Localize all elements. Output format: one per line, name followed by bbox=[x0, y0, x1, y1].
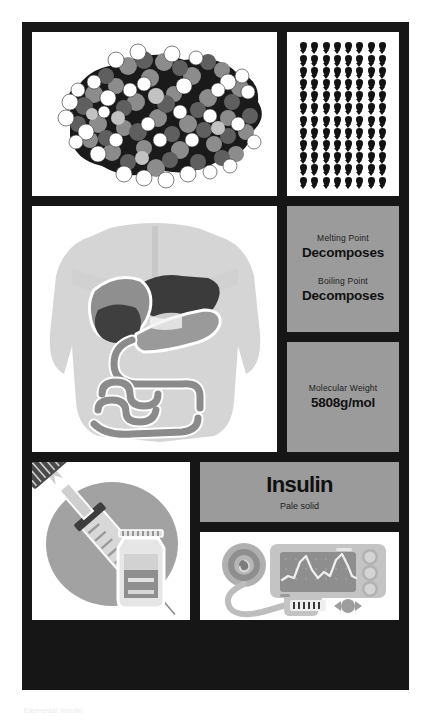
monitor-panel bbox=[200, 532, 399, 620]
human-torso-digestive-organs-icon bbox=[32, 206, 277, 452]
droplet-icon bbox=[356, 164, 363, 173]
droplet-icon bbox=[368, 140, 375, 149]
anatomy-panel bbox=[32, 206, 277, 452]
droplet-icon bbox=[323, 152, 330, 161]
droplet-icon bbox=[356, 140, 363, 149]
molecule-panel bbox=[32, 32, 277, 196]
droplet-icon bbox=[323, 164, 330, 173]
droplet-icon bbox=[345, 140, 352, 149]
droplet-icon bbox=[345, 67, 352, 76]
droplet-icon bbox=[379, 152, 386, 161]
droplet-icon bbox=[311, 116, 318, 125]
droplet-icon bbox=[323, 103, 330, 112]
droplet-icon bbox=[323, 55, 330, 64]
droplet-icon bbox=[379, 55, 386, 64]
droplet-icon bbox=[345, 103, 352, 112]
droplet-icon bbox=[345, 116, 352, 125]
droplet-icon bbox=[311, 128, 318, 137]
droplet-icon bbox=[379, 67, 386, 76]
molecular-weight-panel: Molecular Weight 5808g/mol bbox=[287, 342, 399, 452]
droplet-icon bbox=[311, 42, 318, 51]
droplet-icon bbox=[379, 128, 386, 137]
droplet-icon bbox=[345, 128, 352, 137]
droplet-icon bbox=[334, 55, 341, 64]
boiling-point-label: Boiling Point bbox=[302, 276, 384, 287]
compound-description: Pale solid bbox=[280, 502, 319, 511]
droplet-icon bbox=[334, 152, 341, 161]
compound-title-panel: Insulin Pale solid bbox=[200, 462, 399, 522]
droplet-icon bbox=[323, 79, 330, 88]
droplet-icon bbox=[368, 177, 375, 186]
droplet-icon bbox=[379, 140, 386, 149]
droplet-icon bbox=[300, 152, 307, 161]
droplet-icon bbox=[356, 103, 363, 112]
droplet-grid bbox=[298, 41, 388, 187]
droplet-icon bbox=[368, 103, 375, 112]
droplet-icon bbox=[379, 164, 386, 173]
melting-point-block: Melting Point Decomposes bbox=[302, 233, 384, 262]
droplet-icon bbox=[300, 55, 307, 64]
droplet-icon bbox=[300, 140, 307, 149]
droplet-icon bbox=[345, 55, 352, 64]
droplet-icon bbox=[368, 152, 375, 161]
droplet-icon bbox=[379, 79, 386, 88]
droplet-icon bbox=[345, 164, 352, 173]
poster-frame: Melting Point Decomposes Boiling Point D… bbox=[22, 22, 409, 690]
droplet-icon bbox=[379, 91, 386, 100]
droplet-icon bbox=[300, 177, 307, 186]
droplet-icon bbox=[356, 42, 363, 51]
droplet-icon bbox=[311, 79, 318, 88]
water-droplet-grid-icon bbox=[287, 32, 399, 196]
droplet-icon bbox=[300, 79, 307, 88]
droplet-icon bbox=[368, 55, 375, 64]
melting-point-value: Decomposes bbox=[302, 245, 384, 262]
droplet-icon bbox=[300, 42, 307, 51]
boiling-point-value: Decomposes bbox=[302, 288, 384, 305]
droplet-icon bbox=[334, 177, 341, 186]
syringe-panel bbox=[32, 462, 190, 620]
melting-point-label: Melting Point bbox=[302, 233, 384, 244]
molecular-weight-label: Molecular Weight bbox=[309, 383, 378, 394]
droplet-icon bbox=[300, 91, 307, 100]
droplet-icon bbox=[356, 177, 363, 186]
droplet-icon bbox=[300, 128, 307, 137]
droplet-icon bbox=[300, 67, 307, 76]
droplet-icon bbox=[311, 91, 318, 100]
droplet-icon bbox=[345, 152, 352, 161]
droplet-icon bbox=[356, 128, 363, 137]
droplet-icon bbox=[311, 103, 318, 112]
device-buttons bbox=[362, 549, 378, 597]
droplet-icon bbox=[368, 164, 375, 173]
droplet-icon bbox=[345, 177, 352, 186]
droplet-icon bbox=[379, 103, 386, 112]
syringe-and-vial-icon bbox=[32, 462, 190, 620]
droplet-icon bbox=[368, 116, 375, 125]
droplet-icon bbox=[311, 152, 318, 161]
sensor-electrode bbox=[222, 543, 266, 587]
droplet-icon bbox=[379, 116, 386, 125]
droplet-icon bbox=[300, 164, 307, 173]
droplet-icon bbox=[311, 55, 318, 64]
droplet-icon bbox=[334, 116, 341, 125]
droplet-icon bbox=[368, 79, 375, 88]
droplet-icon bbox=[356, 152, 363, 161]
droplet-icon bbox=[300, 116, 307, 125]
droplets-panel bbox=[287, 32, 399, 196]
droplet-icon bbox=[368, 91, 375, 100]
droplet-icon bbox=[323, 42, 330, 51]
droplet-icon bbox=[311, 67, 318, 76]
poster-caption: Elemental Insulin bbox=[24, 707, 82, 714]
droplet-icon bbox=[356, 91, 363, 100]
droplet-icon bbox=[311, 177, 318, 186]
droplet-icon bbox=[356, 55, 363, 64]
droplet-icon bbox=[334, 140, 341, 149]
droplet-icon bbox=[356, 116, 363, 125]
droplet-icon bbox=[356, 67, 363, 76]
physical-properties-panel: Melting Point Decomposes Boiling Point D… bbox=[287, 206, 399, 332]
droplet-icon bbox=[368, 128, 375, 137]
droplet-icon bbox=[356, 79, 363, 88]
droplet-icon bbox=[345, 79, 352, 88]
droplet-icon bbox=[323, 128, 330, 137]
compound-name: Insulin bbox=[266, 474, 333, 496]
droplet-icon bbox=[379, 177, 386, 186]
